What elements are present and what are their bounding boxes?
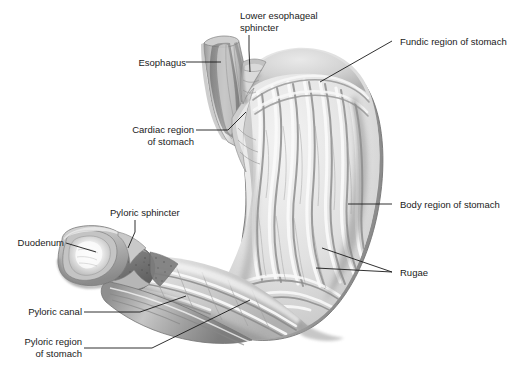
label-fundic-region: Fundic region of stomach — [400, 36, 526, 48]
label-esophagus: Esophagus — [106, 57, 186, 69]
label-lower-esophageal-sphincter: Lower esophageal sphincter — [240, 10, 350, 33]
label-rugae: Rugae — [400, 267, 460, 279]
label-pyloric-sphincter: Pyloric sphincter — [110, 207, 210, 219]
label-cardiac-region: Cardiac region of stomach — [96, 124, 194, 147]
greater-curvature-tip — [297, 322, 344, 341]
label-duodenum: Duodenum — [4, 237, 64, 249]
stomach-anatomy-figure: Esophagus Lower esophageal sphincter Fun… — [0, 0, 526, 379]
label-body-region: Body region of stomach — [400, 199, 526, 211]
label-pyloric-canal: Pyloric canal — [4, 306, 82, 318]
label-pyloric-region: Pyloric region of stomach — [4, 336, 82, 359]
stomach-illustration — [0, 0, 526, 379]
